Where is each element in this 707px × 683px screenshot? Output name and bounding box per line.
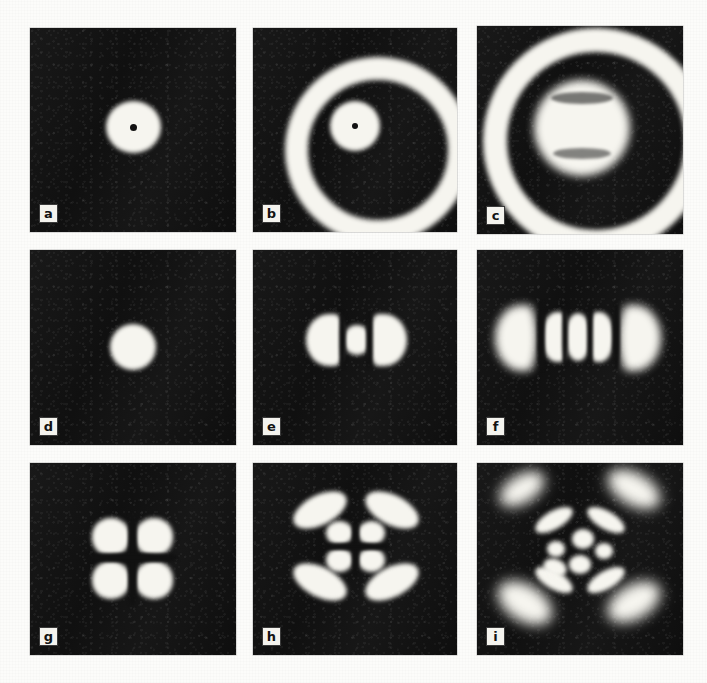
lobe-inner-bottom-right [358,548,385,572]
mode-pattern-c [477,26,683,234]
figure-panel-d[interactable]: d [30,250,236,445]
figure-panel-b[interactable]: b [253,28,457,232]
panel-label-e: e [262,417,281,436]
mode-pattern-f [477,250,683,445]
lobe-inner-top-right [358,521,385,545]
panel-label-i: i [486,627,505,646]
node-2 [562,304,568,366]
inner-texture-arc-top [551,92,613,104]
figure-panel-e[interactable]: e [253,250,457,445]
figure-panel-g[interactable]: g [30,463,236,655]
panel-label-g: g [39,627,58,646]
figure-panel-f[interactable]: f [477,250,683,445]
node-left [339,312,346,368]
node-4 [612,302,620,370]
mode-pattern-e [253,250,457,445]
lobe-central-spot [110,324,156,370]
node-inner-horizontal [323,543,389,550]
panel-label-c: c [486,206,505,225]
panel-label-a: a [39,204,58,223]
node-3 [587,304,593,366]
lobe-inner-bottom [569,555,591,574]
mode-pattern-b [253,28,457,232]
node-1 [537,302,545,370]
figure-panel-h[interactable]: h [253,463,457,655]
lobe-mid-top-left [531,502,576,539]
lobe-inner-top [572,529,594,549]
figure-panel-a[interactable]: a [30,28,236,232]
inner-texture-arc-bottom [553,148,611,159]
mode-pattern-a [30,28,236,232]
panel-label-d: d [39,417,58,436]
central-dark-point [130,124,137,131]
central-dark-point [352,123,358,129]
mode-pattern-d [30,250,236,445]
figure-panel-i[interactable]: i [477,463,683,655]
mode-pattern-i [477,463,683,655]
lobe-far-right [619,305,661,371]
node-horizontal [88,553,178,562]
lobe-right-crescent [369,314,407,366]
lobe-bottom-right [135,561,173,599]
figure-panel-c[interactable]: c [477,26,683,234]
mode-pattern-g [30,463,236,655]
lobe-inner-bottom-left [326,548,353,572]
figure-sheet: a b c d e [0,0,707,683]
panel-label-h: h [262,627,281,646]
lobe-outer-top-right [601,463,667,517]
lobe-inner-left [547,541,565,557]
mode-pattern-h [253,463,457,655]
node-right [366,312,373,368]
panel-label-b: b [262,204,281,223]
lobe-outer-top-left [493,464,550,514]
lobe-top-left [92,518,130,556]
panel-label-f: f [486,417,505,436]
lobe-top-right [135,518,173,556]
lobe-bottom-left [92,561,130,599]
lobe-inner-top-left [326,521,353,545]
lobe-inner-upper-right [595,543,613,559]
lobe-far-left [495,305,537,371]
